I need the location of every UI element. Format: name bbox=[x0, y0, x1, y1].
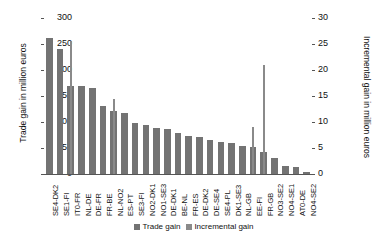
x-axis-line bbox=[44, 174, 312, 175]
y-tick-mark-right bbox=[312, 18, 315, 19]
bar-trade-gain bbox=[121, 113, 128, 174]
x-tick-label: NL-GB bbox=[245, 193, 253, 216]
bar-trade-gain bbox=[57, 49, 64, 174]
bar-group bbox=[89, 18, 96, 174]
bar-group bbox=[67, 18, 74, 174]
bar-trade-gain bbox=[271, 158, 278, 174]
bar-group bbox=[218, 18, 225, 174]
bar-group bbox=[250, 18, 257, 174]
bar-group bbox=[293, 18, 300, 174]
legend-swatch bbox=[134, 224, 140, 230]
y-axis-left-title: Trade gain in million euros bbox=[18, 18, 28, 168]
x-tick-label: IT0-FR bbox=[74, 193, 82, 216]
y-tick-label-right: 10 bbox=[318, 117, 358, 126]
bar-trade-gain bbox=[282, 166, 289, 174]
bar-trade-gain bbox=[153, 128, 160, 174]
x-tick-label: SE4-PL bbox=[224, 190, 232, 216]
legend-label: Trade gain bbox=[142, 222, 180, 231]
y-tick-mark-right bbox=[312, 148, 315, 149]
x-tick-label: NO2-DK1 bbox=[149, 183, 157, 216]
x-tick-label: NO4-SE1 bbox=[288, 184, 296, 216]
y-tick-mark-right bbox=[312, 70, 315, 71]
x-tick-label: FR-ES bbox=[192, 194, 200, 217]
bar-group bbox=[207, 18, 214, 174]
x-tick-label: DE-SE4 bbox=[213, 189, 221, 216]
x-tick-label: NL-DE bbox=[85, 193, 93, 216]
bar-group bbox=[164, 18, 171, 174]
bar-trade-gain bbox=[196, 137, 203, 174]
y-tick-label-right: 20 bbox=[318, 65, 358, 74]
legend-item: Trade gain bbox=[134, 222, 180, 231]
bar-group bbox=[228, 18, 235, 174]
x-tick-label: ES-PT bbox=[127, 194, 135, 216]
bar-group bbox=[239, 18, 246, 174]
bar-trade-gain bbox=[207, 140, 214, 174]
bar-group bbox=[260, 18, 267, 174]
x-tick-label: EE-FI bbox=[256, 197, 264, 216]
bar-group bbox=[196, 18, 203, 174]
bar-trade-gain bbox=[100, 106, 107, 174]
y-axis-right-title: Incremental gain in million euros bbox=[362, 12, 372, 182]
x-tick-label: FR-GB bbox=[267, 193, 275, 216]
bar-group bbox=[121, 18, 128, 174]
bar-group bbox=[185, 18, 192, 174]
bar-trade-gain bbox=[293, 167, 300, 174]
bar-group bbox=[57, 18, 64, 174]
x-tick-label: NO4-SE2 bbox=[310, 184, 318, 216]
bar-trade-gain bbox=[218, 142, 225, 174]
x-tick-label: NL-NO2 bbox=[117, 188, 125, 216]
plot-area bbox=[44, 18, 312, 174]
x-tick-label: AT0-DE bbox=[299, 190, 307, 216]
bar-group bbox=[78, 18, 85, 174]
legend-item: Incremental gain bbox=[186, 222, 253, 231]
bar-group bbox=[271, 18, 278, 174]
bar-trade-gain bbox=[164, 129, 171, 174]
y-tick-mark-right bbox=[312, 96, 315, 97]
y-tick-mark-right bbox=[312, 174, 315, 175]
bar-group bbox=[100, 18, 107, 174]
bar-trade-gain bbox=[132, 123, 139, 174]
x-tick-label: FR-BE bbox=[106, 194, 114, 217]
legend-label: Incremental gain bbox=[194, 222, 253, 231]
legend-swatch bbox=[186, 224, 192, 230]
y-tick-label-right: 5 bbox=[318, 143, 358, 152]
bar-group bbox=[153, 18, 160, 174]
bar-trade-gain bbox=[78, 86, 85, 174]
bar-trade-gain bbox=[228, 143, 235, 174]
y-tick-label-right: 25 bbox=[318, 39, 358, 48]
bar-group bbox=[303, 18, 310, 174]
bar-group bbox=[282, 18, 289, 174]
bar-incremental-gain bbox=[113, 99, 115, 174]
bar-group bbox=[143, 18, 150, 174]
bar-group bbox=[175, 18, 182, 174]
y-tick-label-right: 15 bbox=[318, 91, 358, 100]
bar-trade-gain bbox=[185, 136, 192, 174]
bar-trade-gain bbox=[239, 146, 246, 174]
x-tick-label: SE3-FI bbox=[138, 193, 146, 216]
bar-incremental-gain bbox=[70, 41, 72, 174]
bar-trade-gain bbox=[89, 88, 96, 174]
x-tick-label: DK1-SE3 bbox=[235, 185, 243, 216]
bar-trade-gain bbox=[175, 133, 182, 174]
bar-group bbox=[110, 18, 117, 174]
x-tick-label: NO3-SE2 bbox=[277, 184, 285, 216]
y-tick-label-right: 0 bbox=[318, 169, 358, 178]
chart-container: Trade gain in million euros Incremental … bbox=[0, 0, 388, 238]
bar-group bbox=[132, 18, 139, 174]
x-tick-label: BE-NL bbox=[181, 194, 189, 216]
x-tick-label: SE4-DK2 bbox=[52, 185, 60, 216]
x-tick-label: DE-DK1 bbox=[170, 188, 178, 216]
x-tick-label: DE-FR bbox=[95, 193, 103, 216]
y-tick-mark-right bbox=[312, 122, 315, 123]
bar-group bbox=[46, 18, 53, 174]
x-tick-label: NO1-SE3 bbox=[160, 184, 168, 216]
bar-trade-gain bbox=[46, 38, 53, 174]
y-tick-mark-right bbox=[312, 44, 315, 45]
chart-legend: Trade gainIncremental gain bbox=[0, 222, 388, 231]
y-tick-label-right: 30 bbox=[318, 13, 358, 22]
bar-incremental-gain bbox=[252, 127, 254, 174]
bar-incremental-gain bbox=[263, 65, 265, 174]
x-tick-label: DE-DK2 bbox=[202, 188, 210, 216]
x-tick-label: SE1-FI bbox=[63, 193, 71, 216]
bar-trade-gain bbox=[143, 125, 150, 174]
